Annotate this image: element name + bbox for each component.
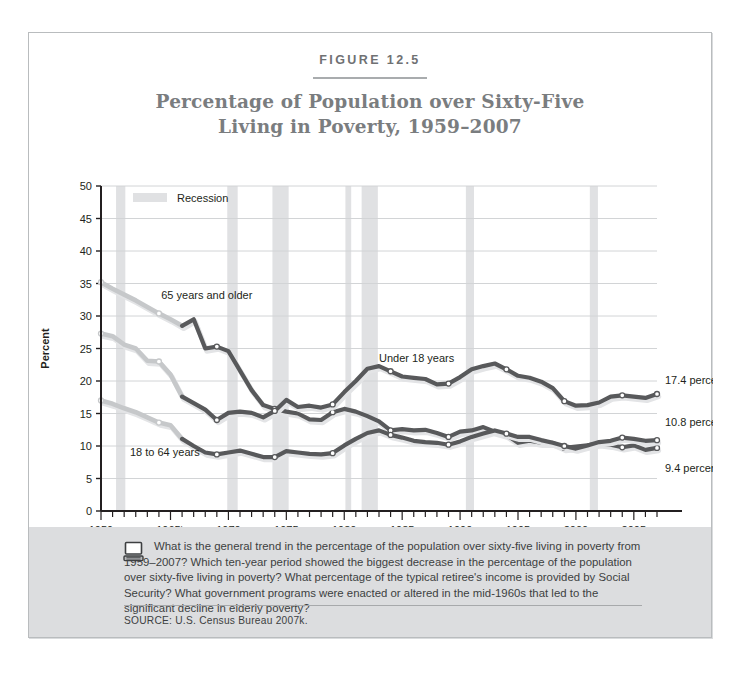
series-label: Under 18 years [379,352,455,364]
data-point-marker [562,399,567,404]
y-tick-label: 45 [80,213,92,225]
data-point-marker [655,438,660,443]
data-point-marker [504,367,509,372]
y-tick-label: 35 [80,278,92,290]
series-line-early [101,334,182,397]
figure-number: FIGURE 12.5 [29,53,711,67]
data-point-marker [214,418,219,423]
end-annotation: 9.4 percent [665,462,713,474]
y-axis-tick-labels: 05101520253035404550 [80,180,92,517]
data-point-marker [156,420,161,425]
data-point-marker [446,442,451,447]
y-tick-label: 0 [86,505,92,517]
data-point-marker [504,431,509,436]
data-point-marker [330,402,335,407]
figure-title: Percentage of Population over Sixty-Five… [29,89,711,139]
data-point-marker [272,455,277,460]
figure-card: FIGURE 12.5 Percentage of Population ove… [28,32,712,638]
data-point-marker [562,444,567,449]
y-tick-label: 40 [80,245,92,257]
y-axis-title: Percent [39,328,51,369]
series-line [182,319,657,450]
end-annotation: 10.8 percent [665,416,713,428]
source-line: SOURCE: U.S. Census Bureau 2007k. [124,615,308,626]
data-point-marker [214,344,219,349]
data-point-marker [620,445,625,450]
series-label: 65 years and older [161,289,252,301]
data-point-marker [655,445,660,450]
legend-swatch-recession [133,193,167,202]
y-tick-label: 50 [80,180,92,192]
figure-title-line-1: Percentage of Population over Sixty-Five [156,91,585,112]
source-divider [124,605,642,606]
series-line-early [101,401,182,439]
y-tick-label: 5 [86,473,92,485]
data-point-marker [655,392,660,397]
data-point-marker [446,434,451,439]
y-tick-label: 15 [80,408,92,420]
data-point-marker [388,432,393,437]
axis-titles: YearPercent [39,328,391,527]
computer-monitor-icon [123,541,147,563]
data-point-marker [156,311,161,316]
data-point-marker [620,435,625,440]
figure-title-line-2: Living in Poverty, 1959–2007 [29,114,711,139]
data-point-marker [620,393,625,398]
legend-label-recession: Recession [177,192,228,204]
line-chart-svg: 05101520253035404550 19591965ᵇ1970197519… [29,141,713,527]
y-tick-label: 20 [80,375,92,387]
y-tick-label: 10 [80,440,92,452]
data-point-marker [446,381,451,386]
end-annotation: 17.4 percent [665,374,713,386]
chart-legend: Recession [133,192,228,204]
data-series-group [99,280,660,460]
end-value-annotations: 17.4 percent10.8 percent9.4 percent [665,374,713,474]
data-point-marker [156,359,161,364]
chart-plot: 05101520253035404550 19591965ᵇ1970197519… [29,141,713,527]
y-tick-label: 30 [80,310,92,322]
series-label: 18 to 64 years [130,446,200,458]
figure-rule [313,77,427,79]
question-footer: What is the general trend in the percent… [29,527,711,637]
data-point-marker [272,408,277,413]
series-shadow [103,336,659,423]
data-point-marker [330,451,335,456]
data-point-marker [214,452,219,457]
y-tick-label: 25 [80,343,92,355]
data-point-marker [388,369,393,374]
